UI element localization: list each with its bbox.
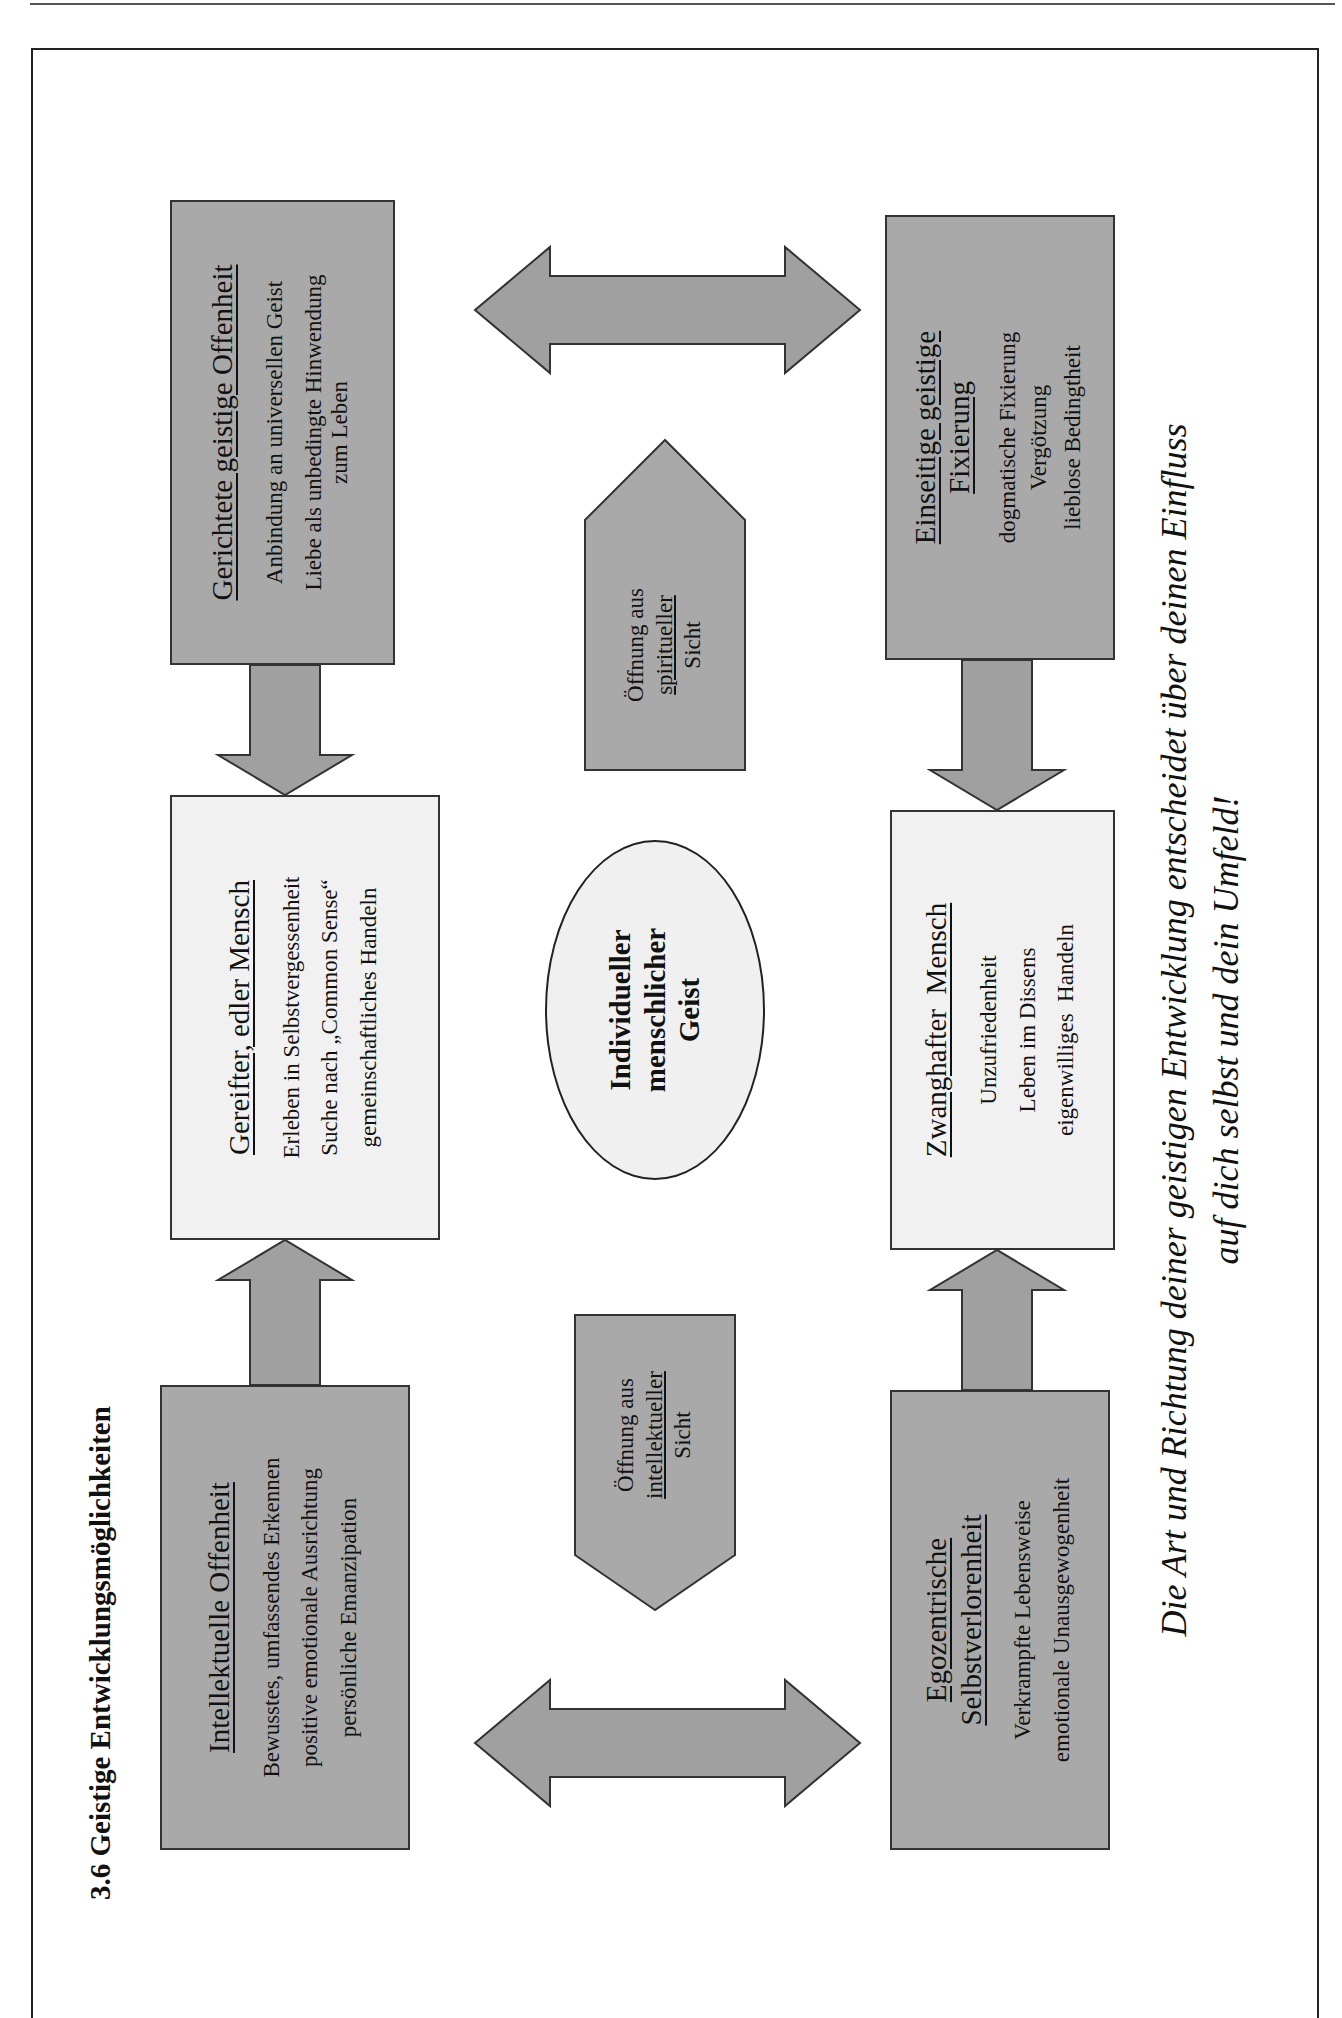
caption-line: Die Art und Richtung deiner geistigen En…	[1148, 50, 1200, 2010]
box-heading: Gereifter, edler Mensch	[222, 880, 257, 1155]
box-heading: Zwanghafter Mensch	[919, 903, 954, 1157]
arrow-egozentrische-to-zwanghafter	[930, 1250, 1064, 1390]
box-line: Unzufriedenheit	[976, 955, 1002, 1104]
box-line: Verkrampfte Lebensweise	[1010, 1500, 1036, 1739]
center-line: menschlicher	[638, 928, 673, 1092]
box-line: dogmatische Fixierung	[995, 332, 1021, 543]
box-heading: Gerichtete geistige Offenheit	[205, 264, 240, 600]
opening-line: Sicht	[679, 621, 708, 668]
box-line: eigenwilliges Handeln	[1053, 924, 1079, 1136]
box-gerichtete-offenheit: Gerichtete geistige Offenheit Anbindung …	[170, 200, 395, 665]
box-heading: Egozentrische	[919, 1538, 954, 1702]
box-einseitige-fixierung: Einseitige geistige Fixierung dogmatisch…	[885, 215, 1115, 660]
caption: Die Art und Richtung deiner geistigen En…	[1148, 50, 1252, 2010]
box-heading: Selbstverlorenheit	[954, 1515, 989, 1726]
box-line: Anbindung an universellen Geist	[262, 281, 288, 584]
box-line: persönliche Emanzipation	[336, 1498, 362, 1738]
opening-line: spiritueller	[651, 595, 680, 695]
center-ellipse: Individueller menschlicher Geist	[545, 840, 765, 1180]
box-heading: Intellektuelle Offenheit	[202, 1482, 237, 1753]
caption-line: auf dich selbst und dein Umfeld!	[1200, 50, 1252, 2010]
box-egozentrische-selbstverlorenheit: Egozentrische Selbstverlorenheit Verkram…	[890, 1390, 1110, 1850]
box-line: gemeinschaftliches Handeln	[356, 888, 382, 1148]
box-line: Erleben in Selbstvergessenheit	[279, 877, 305, 1159]
opening-intellectual-label: Öffnung aus intellektueller Sicht	[575, 1315, 735, 1555]
box-line: positive emotionale Ausrichtung	[297, 1468, 323, 1767]
opening-spiritual-label: Öffnung aus spiritueller Sicht	[585, 520, 745, 770]
box-line: emotionale Unausgewogenheit	[1049, 1478, 1075, 1762]
box-gereifter-mensch: Gereifter, edler Mensch Erleben in Selbs…	[170, 795, 440, 1240]
center-line: Individueller	[603, 929, 638, 1090]
double-arrow-right	[475, 247, 860, 373]
double-arrow-left	[475, 1680, 860, 1806]
arrow-intellektuelle-to-gereifter	[218, 1240, 352, 1385]
box-intellektuelle-offenheit: Intellektuelle Offenheit Bewusstes, umfa…	[160, 1385, 410, 1850]
box-heading: Einseitige geistige	[908, 331, 943, 544]
opening-line: intellektueller	[641, 1371, 670, 1499]
box-line: zum Leben	[327, 381, 353, 484]
center-line: Geist	[672, 978, 707, 1042]
box-line: Bewusstes, umfassendes Erkennen	[259, 1458, 285, 1778]
box-zwanghafter-mensch: Zwanghafter Mensch Unzufriedenheit Leben…	[890, 810, 1115, 1250]
box-line: Vergötzung	[1026, 385, 1052, 491]
box-line: Liebe als unbedingte Hinwendung	[301, 274, 327, 590]
arrow-einseitige-to-zwanghafter	[930, 660, 1064, 810]
box-heading: Fixierung	[942, 381, 977, 494]
opening-line: Öffnung aus	[622, 588, 651, 702]
box-line: Suche nach „Common Sense“	[317, 879, 343, 1156]
box-line: lieblose Bedingtheit	[1060, 345, 1086, 530]
opening-line: Öffnung aus	[612, 1378, 641, 1492]
opening-line: Sicht	[669, 1411, 698, 1458]
box-line: Leben im Dissens	[1015, 948, 1041, 1113]
arrow-gerichtete-to-gereifter	[218, 665, 352, 795]
